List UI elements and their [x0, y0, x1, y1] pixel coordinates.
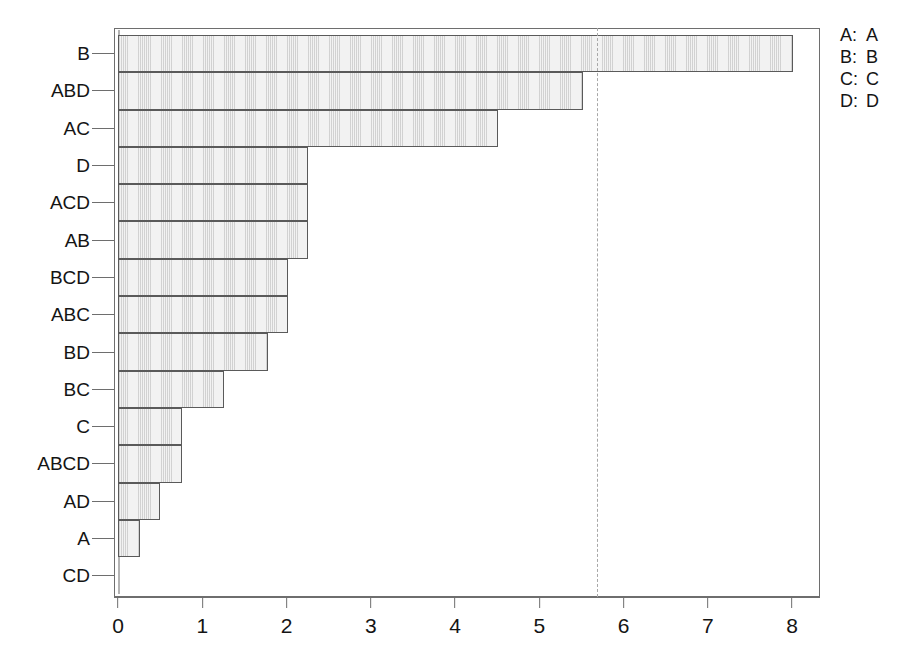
- category-tick-label: ABCD: [37, 454, 92, 473]
- category-tick-mark: [92, 575, 114, 576]
- category-tick-mark: [92, 463, 114, 464]
- value-axis: 012345678: [0, 597, 907, 667]
- value-tick-label: 8: [786, 615, 798, 636]
- value-tick-1: 1: [196, 597, 208, 636]
- legend-key: D:: [840, 90, 866, 112]
- category-tick-label: ACD: [50, 193, 92, 212]
- value-tick-label: 0: [112, 615, 124, 636]
- legend-row-b: B:B: [840, 46, 907, 68]
- value-tick-label: 2: [281, 615, 293, 636]
- value-tick-mark: [286, 597, 287, 608]
- bar-abc: [118, 296, 288, 333]
- value-tick-mark: [455, 597, 456, 608]
- value-tick-mark: [792, 597, 793, 608]
- value-tick-mark: [370, 597, 371, 608]
- bar-row: [118, 296, 820, 333]
- bar-ab: [118, 221, 308, 258]
- value-tick-3: 3: [365, 597, 377, 636]
- category-tick-mark: [92, 277, 114, 278]
- value-tick-label: 7: [702, 615, 714, 636]
- legend-key: B:: [840, 46, 866, 68]
- category-tick-label: AB: [65, 231, 92, 250]
- category-tick-mark: [92, 538, 114, 539]
- bar-row: [118, 259, 820, 296]
- bar-ac: [118, 110, 498, 147]
- value-tick-7: 7: [702, 597, 714, 636]
- plot-area: [114, 28, 820, 597]
- category-tick-mark: [92, 165, 114, 166]
- category-tick-label: A: [77, 529, 92, 548]
- bar-c: [118, 408, 182, 445]
- category-tick-mark: [92, 240, 114, 241]
- legend-key: C:: [840, 68, 866, 90]
- reference-threshold-line: [597, 28, 598, 597]
- category-tick-mark: [92, 426, 114, 427]
- category-tick-label: C: [76, 417, 92, 436]
- bar-a: [118, 520, 140, 557]
- pareto-chart: BABDACDACDABBCDABCBDBCCABCDADACD 0123456…: [0, 0, 907, 667]
- category-tick-label: CD: [63, 566, 92, 585]
- category-tick-label: BCD: [50, 268, 92, 287]
- legend: A:AB:BC:CD:D: [840, 24, 907, 112]
- category-tick-mark: [92, 128, 114, 129]
- legend-value: D: [866, 90, 879, 112]
- value-axis-line: [114, 597, 820, 598]
- category-tick-label: ABC: [51, 305, 92, 324]
- value-tick-mark: [202, 597, 203, 608]
- value-tick-label: 5: [533, 615, 545, 636]
- bar-row: [118, 72, 820, 109]
- value-tick-mark: [623, 597, 624, 608]
- value-tick-4: 4: [449, 597, 461, 636]
- category-tick-mark: [92, 53, 114, 54]
- category-tick-mark: [92, 90, 114, 91]
- bar-row: [118, 408, 820, 445]
- bar-row: [118, 147, 820, 184]
- category-tick-mark: [92, 352, 114, 353]
- category-tick-label: BC: [64, 380, 92, 399]
- category-axis: BABDACDACDABBCDABCBDBCCABCDADACD: [0, 28, 114, 597]
- bar-row: [118, 520, 820, 557]
- category-tick-mark: [92, 202, 114, 203]
- legend-row-d: D:D: [840, 90, 907, 112]
- bar-row: [118, 557, 820, 594]
- bar-acd: [118, 184, 308, 221]
- category-tick-mark: [92, 314, 114, 315]
- category-tick-label: B: [77, 44, 92, 63]
- value-tick-label: 1: [196, 615, 208, 636]
- legend-value: A: [866, 24, 878, 46]
- value-tick-mark: [118, 597, 119, 608]
- category-tick-label: D: [76, 156, 92, 175]
- legend-value: C: [866, 68, 879, 90]
- bar-series: [118, 35, 820, 594]
- value-tick-2: 2: [281, 597, 293, 636]
- bar-row: [118, 221, 820, 258]
- legend-row-a: A:A: [840, 24, 907, 46]
- bar-bd: [118, 333, 268, 370]
- value-tick-0: 0: [112, 597, 124, 636]
- bar-bc: [118, 371, 224, 408]
- value-tick-label: 4: [449, 615, 461, 636]
- bar-ad: [118, 483, 160, 520]
- value-tick-mark: [707, 597, 708, 608]
- legend-value: B: [866, 46, 878, 68]
- bar-abcd: [118, 445, 182, 482]
- value-tick-6: 6: [618, 597, 630, 636]
- bar-row: [118, 445, 820, 482]
- category-tick-label: AD: [64, 492, 92, 511]
- value-tick-mark: [539, 597, 540, 608]
- bar-row: [118, 483, 820, 520]
- bar-row: [118, 184, 820, 221]
- category-tick-mark: [92, 389, 114, 390]
- bar-row: [118, 371, 820, 408]
- bar-row: [118, 333, 820, 370]
- value-tick-8: 8: [786, 597, 798, 636]
- bar-row: [118, 110, 820, 147]
- value-tick-label: 6: [618, 615, 630, 636]
- bar-bcd: [118, 259, 288, 296]
- bar-abd: [118, 72, 583, 109]
- value-tick-5: 5: [533, 597, 545, 636]
- bar-d: [118, 147, 308, 184]
- category-tick-mark: [92, 501, 114, 502]
- bar-row: [118, 35, 820, 72]
- value-tick-label: 3: [365, 615, 377, 636]
